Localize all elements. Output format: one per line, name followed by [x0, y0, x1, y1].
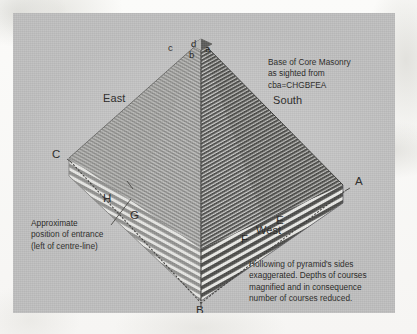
compass-label-west: West [256, 225, 281, 236]
apex-label-b: b [189, 50, 194, 60]
compass-label-east: East [103, 93, 125, 104]
corner-label-h: H [103, 193, 111, 205]
illustration-plate: c d b a C A B H G E F East South West Ba… [13, 13, 395, 313]
apex-label-a: a [205, 44, 210, 54]
note-entrance-position: Approximate position of entrance (left o… [31, 218, 146, 252]
corner-label-f: F [241, 234, 248, 246]
compass-label-south: South [273, 95, 302, 106]
apex-label-c: c [168, 43, 173, 53]
corner-label-a-upper: A [355, 176, 363, 188]
note-base-of-core-masonry: Base of Core Masonry as sighted from cba… [268, 57, 393, 91]
note-hollowing-of-sides: Hollowing of pyramid's sides exaggerated… [249, 259, 395, 305]
corner-label-c-upper: C [52, 149, 60, 161]
apex-label-d: d [191, 39, 196, 49]
corner-label-b-upper: B [196, 305, 204, 313]
east-face [53, 33, 223, 313]
